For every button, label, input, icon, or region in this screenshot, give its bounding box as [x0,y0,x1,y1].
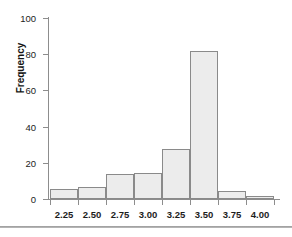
y-tick: 60 [43,90,48,91]
x-tick [190,200,191,205]
x-tick [162,200,163,205]
x-tick-label: 3.25 [167,209,186,220]
histogram-chart: Frequency 020406080100 2.252.502.753.003… [0,0,292,237]
histogram-bar [162,149,190,199]
y-tick: 20 [43,163,48,164]
y-tick: 100 [43,18,48,19]
x-tick-label: 2.75 [111,209,130,220]
y-tick: 40 [43,127,48,128]
y-tick-label: 20 [25,157,36,168]
y-tick: 0 [43,199,48,200]
y-tick: 80 [43,54,48,55]
x-tick [50,200,51,205]
x-tick-label: 3.75 [223,209,242,220]
y-tick-label: 40 [25,121,36,132]
histogram-bar [106,174,134,199]
histogram-bar [190,51,218,199]
histogram-bar [50,189,78,199]
y-tick-label: 60 [25,85,36,96]
x-tick [134,200,135,205]
page-divider [0,226,292,228]
histogram-bar [78,187,106,199]
x-tick-label: 3.00 [139,209,158,220]
y-tick-label: 100 [20,13,36,24]
x-tick [218,200,219,205]
histogram-bar [246,196,274,199]
x-tick [78,200,79,205]
x-tick-label: 2.25 [55,209,74,220]
x-tick-label: 4.00 [251,209,270,220]
histogram-bar [134,173,162,199]
histogram-bar [218,191,246,199]
plot-area: 020406080100 2.252.502.753.003.253.503.7… [48,17,280,200]
y-tick-label: 0 [31,194,36,205]
x-tick-label: 3.50 [195,209,214,220]
y-tick-label: 80 [25,49,36,60]
y-axis-line [48,17,49,200]
x-tick [246,200,247,205]
x-tick [106,200,107,205]
x-tick-label: 2.50 [83,209,102,220]
x-tick [274,200,275,205]
